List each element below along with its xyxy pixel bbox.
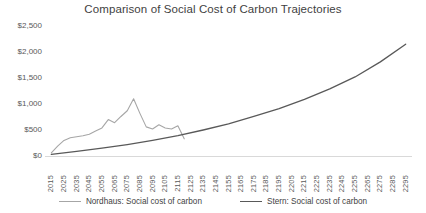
x-axis-tick-label: 2065 (111, 175, 118, 192)
x-axis-tick-label: 2295 (402, 175, 409, 192)
y-axis: $0$500$1,000$1,500$2,000$2,500 (0, 20, 42, 162)
x-axis-tick-label: 2205 (288, 175, 295, 192)
series-canvas (45, 26, 412, 156)
chart-title: Comparison of Social Cost of Carbon Traj… (0, 3, 426, 15)
series-line-stern (51, 44, 405, 154)
x-axis-line (45, 156, 412, 157)
y-axis-tick-label: $0 (0, 152, 42, 160)
x-axis-tick-label: 2285 (389, 175, 396, 192)
x-axis-tick-label: 2175 (250, 175, 257, 192)
legend-item[interactable]: Stern: Social cost of carbon (240, 197, 367, 206)
x-axis-tick-label: 2115 (174, 175, 181, 192)
chart-container: Comparison of Social Cost of Carbon Traj… (0, 0, 426, 213)
x-axis-tick-label: 2185 (262, 175, 269, 192)
series-line-nordhaus (51, 99, 184, 153)
x-axis-tick-label: 2275 (376, 175, 383, 192)
legend-line-swatch (59, 201, 81, 202)
y-axis-tick-label: $2,000 (0, 48, 42, 56)
x-axis-tick-label: 2045 (85, 175, 92, 192)
legend-label: Nordhaus: Social cost of carbon (86, 197, 202, 206)
x-axis-tick-label: 2155 (225, 175, 232, 192)
x-axis-tick-label: 2035 (73, 175, 80, 192)
x-axis-tick-label: 2145 (212, 175, 219, 192)
x-axis-tick-label: 2125 (187, 175, 194, 192)
y-axis-tick-label: $1,500 (0, 74, 42, 82)
x-axis-tick-label: 2255 (351, 175, 358, 192)
y-axis-tick-label: $2,500 (0, 22, 42, 30)
y-axis-tick-label: $500 (0, 126, 42, 134)
x-axis-tick-label: 2215 (300, 175, 307, 192)
x-axis-tick-label: 2245 (338, 175, 345, 192)
x-axis-tick-label: 2265 (364, 175, 371, 192)
x-axis-tick-label: 2225 (313, 175, 320, 192)
x-axis-tick-label: 2105 (161, 175, 168, 192)
chart-legend: Nordhaus: Social cost of carbonStern: So… (0, 192, 426, 210)
x-axis-tick-label: 2085 (136, 175, 143, 192)
x-axis-tick-label: 2195 (275, 175, 282, 192)
legend-label: Stern: Social cost of carbon (267, 197, 367, 206)
x-axis-tick-label: 2095 (149, 175, 156, 192)
y-axis-tick-label: $1,000 (0, 100, 42, 108)
plot-area (45, 26, 412, 156)
legend-line-swatch (240, 201, 262, 202)
x-axis: 2015202520352045205520652075208520952105… (45, 158, 412, 192)
legend-item[interactable]: Nordhaus: Social cost of carbon (59, 197, 202, 206)
x-axis-tick-label: 2075 (123, 175, 130, 192)
x-axis-tick-label: 2235 (326, 175, 333, 192)
x-axis-tick-label: 2055 (98, 175, 105, 192)
x-axis-tick-label: 2015 (47, 175, 54, 192)
x-axis-tick-label: 2135 (199, 175, 206, 192)
x-axis-tick-label: 2165 (237, 175, 244, 192)
x-axis-tick-label: 2025 (60, 175, 67, 192)
